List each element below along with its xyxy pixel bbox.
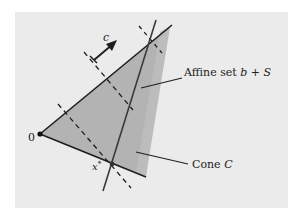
optimum-sup: * [98,160,102,168]
affine-set-text: Affine set [183,66,240,79]
cone-text: Cone [192,158,224,171]
optimum-point [110,162,115,167]
cost-vector-label: c [103,31,109,44]
affine-set-label: Affine set b + S [183,66,272,79]
cone-math: C [224,158,233,171]
diagram-canvas: 0 c Affine set b + S Cone C x* [0,0,300,219]
origin-point [37,131,42,136]
cone-lp-diagram: 0 c Affine set b + S Cone C x* [0,0,300,219]
cone-label: Cone C [192,158,233,171]
affine-set-math: b + S [240,66,271,79]
origin-label: 0 [28,131,35,144]
